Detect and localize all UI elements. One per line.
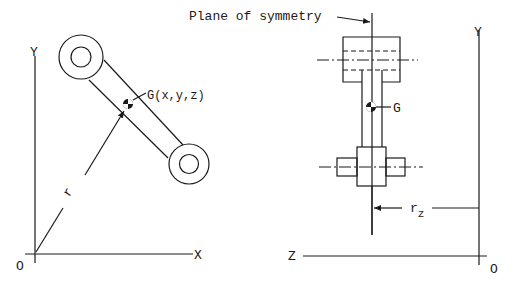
radius-vector-lower — [36, 208, 63, 252]
plane-of-symmetry-label: Plane of symmetry — [189, 9, 322, 24]
rz-label-subscript: z — [418, 208, 425, 220]
left-radius-label: r — [60, 185, 77, 200]
right-y-axis-label: Y — [474, 25, 482, 40]
radius-vector-upper — [85, 111, 124, 175]
right-view — [303, 13, 487, 265]
rod-small-end-outer — [59, 35, 103, 79]
rod-big-end-outer — [169, 144, 209, 184]
cg-symbol-left — [123, 99, 133, 109]
left-view — [25, 35, 209, 263]
left-cg-label: G(x,y,z) — [147, 89, 205, 103]
left-origin-label: O — [16, 259, 24, 274]
rz-label: rz — [410, 201, 424, 220]
left-y-axis-label: Y — [30, 45, 38, 60]
right-z-axis-label: Z — [288, 249, 296, 264]
connecting-rod-diagram: Y X O G(x,y,z) r Plane of symmetry — [0, 0, 516, 289]
plane-leader — [337, 17, 370, 22]
left-x-axis-label: X — [194, 248, 202, 263]
right-cg-label: G — [393, 101, 401, 116]
rz-label-r: r — [410, 201, 418, 216]
cg-symbol-right — [366, 102, 376, 112]
right-origin-label: O — [490, 262, 498, 277]
